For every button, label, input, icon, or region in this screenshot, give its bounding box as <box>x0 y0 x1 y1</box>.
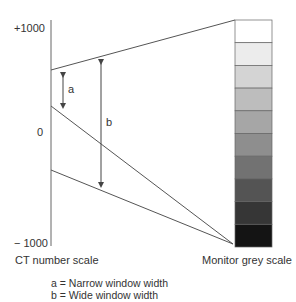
arrow-label-b: b <box>106 116 112 128</box>
grey-level-1 <box>235 20 272 43</box>
arrow-label-a: a <box>68 83 74 95</box>
axis-label-zero: 0 <box>37 126 43 138</box>
grey-level-2 <box>235 43 272 66</box>
grey-level-5 <box>235 111 272 134</box>
grey-level-4 <box>235 88 272 111</box>
grey-level-3 <box>235 65 272 88</box>
axis-label-top: +1000 <box>14 22 45 34</box>
caption-ct-scale: CT number scale <box>15 254 99 266</box>
grey-scale-bar <box>235 20 272 247</box>
legend-b: b = Wide window width <box>51 289 158 301</box>
grey-level-10 <box>235 224 272 247</box>
legend-a: a = Narrow window width <box>51 277 168 289</box>
caption-grey-scale: Monitor grey scale <box>202 254 292 266</box>
wide-window-bottom-line <box>51 170 233 244</box>
narrow-window-bottom-line <box>51 106 233 244</box>
axis-label-bottom: − 1000 <box>14 237 48 249</box>
grey-level-9 <box>235 202 272 225</box>
grey-level-8 <box>235 179 272 202</box>
grey-level-6 <box>235 134 272 157</box>
grey-level-7 <box>235 156 272 179</box>
wide-window-top-line <box>51 20 235 70</box>
